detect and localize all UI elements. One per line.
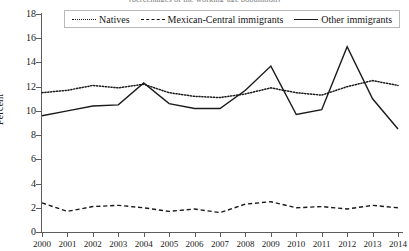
x-axis-tick	[373, 232, 374, 237]
y-axis-tick	[36, 14, 42, 15]
x-axis-tick	[245, 232, 246, 237]
y-axis-line	[41, 13, 42, 233]
chart-figure: (percentages of the working-age populati…	[0, 0, 409, 251]
plot-area	[0, 0, 409, 251]
y-axis-tick-value: 18	[2, 9, 36, 19]
solid-line-icon	[294, 15, 318, 23]
y-axis-tick	[36, 62, 42, 63]
legend-item-mexican-central-immigrants: Mexican-Central immigrants	[141, 14, 284, 25]
chart-legend: Natives Mexican-Central immigrants Other…	[64, 10, 400, 28]
x-axis-tick	[169, 232, 170, 237]
y-axis-tick	[36, 184, 42, 185]
y-axis-tick	[36, 135, 42, 136]
y-axis-tick-label: 0	[0, 227, 36, 237]
y-axis-tick-label: 8	[0, 130, 36, 140]
x-axis-tick	[296, 232, 297, 237]
x-axis-tick	[347, 232, 348, 237]
y-axis-tick-value: 16	[2, 33, 36, 43]
y-axis-tick-label: 4	[0, 179, 36, 189]
y-axis-tick-value: 6	[2, 154, 36, 164]
legend-label-natives: Natives	[99, 14, 130, 25]
x-axis-tick	[220, 232, 221, 237]
x-axis-tick	[271, 232, 272, 237]
y-axis-tick-label: 18	[0, 9, 36, 19]
y-axis-tick-value: 2	[2, 203, 36, 213]
legend-label-mexican-central-immigrants: Mexican-Central immigrants	[168, 14, 284, 25]
y-axis-tick	[36, 38, 42, 39]
x-axis-tick-label: 2014	[378, 239, 409, 250]
legend-item-natives: Natives	[72, 14, 130, 25]
y-axis-tick-value: 14	[2, 57, 36, 67]
x-axis-tick	[322, 232, 323, 237]
y-axis-tick-label: 16	[0, 33, 36, 43]
series-line-mexican-central-immigrants	[42, 202, 398, 213]
x-axis-tick	[93, 232, 94, 237]
x-axis-tick	[144, 232, 145, 237]
x-axis-tick	[118, 232, 119, 237]
y-axis-tick-value: 8	[2, 130, 36, 140]
y-axis-tick-label: 12	[0, 82, 36, 92]
series-line-other-immigrants	[42, 47, 398, 129]
dashed-line-icon	[141, 15, 165, 23]
x-axis-tick	[42, 232, 43, 237]
x-axis-tick	[67, 232, 68, 237]
y-axis-tick-label: 10	[0, 106, 36, 116]
y-axis-tick	[36, 111, 42, 112]
y-axis-tick-value: 12	[2, 82, 36, 92]
y-axis-tick-value: 0	[2, 227, 36, 237]
clipped-figure-title: (percentages of the working-age populati…	[0, 0, 409, 2]
y-axis-tick	[36, 159, 42, 160]
y-axis-tick	[36, 87, 42, 88]
y-axis-tick-label: 14	[0, 57, 36, 67]
series-line-natives	[42, 81, 398, 98]
dotted-line-icon	[72, 15, 96, 23]
y-axis-tick	[36, 208, 42, 209]
x-axis-tick	[195, 232, 196, 237]
y-axis-tick-value: 10	[2, 106, 36, 116]
y-axis-tick-label: 6	[0, 154, 36, 164]
x-axis-line	[41, 232, 403, 233]
y-axis-tick-label: 2	[0, 203, 36, 213]
x-axis-tick	[398, 232, 399, 237]
legend-item-other-immigrants: Other immigrants	[294, 14, 392, 25]
legend-label-other-immigrants: Other immigrants	[321, 14, 392, 25]
y-axis-tick-value: 4	[2, 179, 36, 189]
